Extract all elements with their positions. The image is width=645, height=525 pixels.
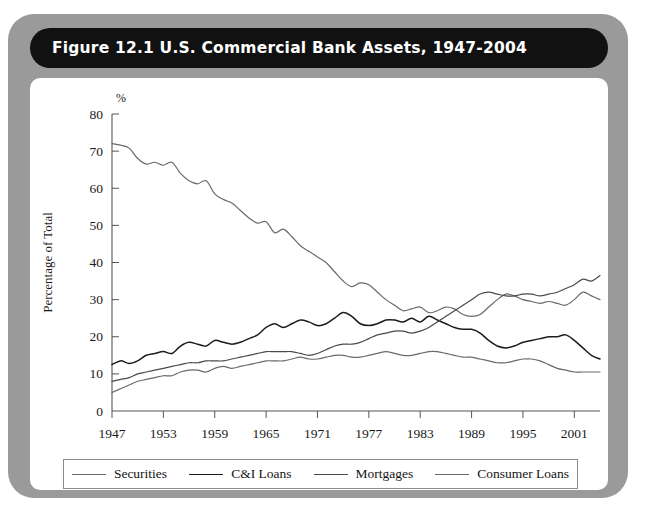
x-tick-label: 1995 — [509, 426, 536, 441]
line-chart: 01020304050607080 1947195319591965197119… — [30, 78, 608, 490]
series-line — [112, 144, 600, 317]
y-tick-label: 70 — [90, 144, 104, 159]
y-axis-title: Percentage of Total — [40, 212, 55, 313]
x-tick-label: 1965 — [253, 426, 280, 441]
chart-legend: SecuritiesC&I LoansMortgagesConsumer Loa… — [63, 459, 578, 489]
series-line — [112, 351, 600, 392]
series-line — [112, 313, 600, 365]
x-tick-label: 1989 — [458, 426, 485, 441]
chart-panel: 01020304050607080 1947195319591965197119… — [30, 78, 608, 490]
series-line — [112, 275, 600, 381]
legend-line-swatch — [314, 474, 348, 475]
legend-entry[interactable]: Consumer Loans — [435, 466, 569, 482]
legend-entry[interactable]: Securities — [72, 466, 167, 482]
x-tick-label: 1959 — [201, 426, 228, 441]
x-tick-label: 1971 — [304, 426, 331, 441]
y-tick-label: 40 — [90, 255, 104, 270]
x-tick-label: 1977 — [355, 426, 382, 441]
y-tick-label: 20 — [90, 329, 104, 344]
legend-entry[interactable]: Mortgages — [314, 466, 414, 482]
legend-entry[interactable]: C&I Loans — [189, 466, 291, 482]
y-tick-label: 60 — [90, 181, 104, 196]
legend-label: Securities — [114, 466, 167, 482]
y-axis: 01020304050607080 — [90, 107, 120, 419]
x-tick-label: 1983 — [407, 426, 434, 441]
y-tick-label: 50 — [90, 218, 104, 233]
y-tick-label: 80 — [90, 107, 104, 122]
x-axis: 1947195319591965197119771983198919952001 — [99, 411, 601, 441]
legend-line-swatch — [435, 474, 469, 475]
chart-series-group — [112, 144, 600, 393]
x-tick-label: 1953 — [150, 426, 177, 441]
percent-unit-label: % — [116, 91, 126, 105]
legend-line-swatch — [72, 474, 106, 475]
figure-title: Figure 12.1 U.S. Commercial Bank Assets,… — [30, 39, 527, 57]
y-tick-label: 30 — [90, 292, 104, 307]
x-tick-label: 1947 — [99, 426, 126, 441]
legend-label: Mortgages — [356, 466, 414, 482]
legend-line-swatch — [189, 474, 223, 475]
figure-title-bar: Figure 12.1 U.S. Commercial Bank Assets,… — [30, 28, 608, 68]
y-tick-label: 10 — [90, 366, 104, 381]
figure-container: Figure 12.1 U.S. Commercial Bank Assets,… — [0, 0, 645, 525]
legend-label: C&I Loans — [231, 466, 291, 482]
x-tick-label: 2001 — [561, 426, 588, 441]
y-tick-label: 0 — [96, 404, 103, 419]
axis-titles: Percentage of Total% — [40, 91, 126, 313]
legend-label: Consumer Loans — [477, 466, 569, 482]
